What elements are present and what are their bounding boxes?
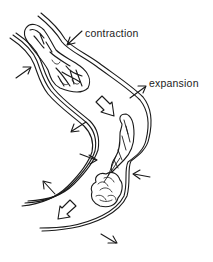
intestine-illustration: [0, 0, 213, 262]
right-inward-arrow: [133, 170, 150, 179]
left-outward-arrow-upper: [71, 122, 86, 132]
flow-arrow-middle: [96, 96, 114, 116]
left-outward-arrow-lower: [43, 181, 55, 194]
contraction-label: contraction: [85, 27, 139, 39]
flow-arrow-bottom: [58, 200, 76, 219]
bolus-lower: [91, 172, 122, 206]
bottom-outward-arrow: [101, 234, 117, 243]
expansion-label: expansion: [149, 77, 199, 89]
intestine-wall-right: [38, 13, 151, 231]
left-inward-arrow: [16, 67, 31, 78]
contraction-arrow-upper: [67, 31, 82, 45]
